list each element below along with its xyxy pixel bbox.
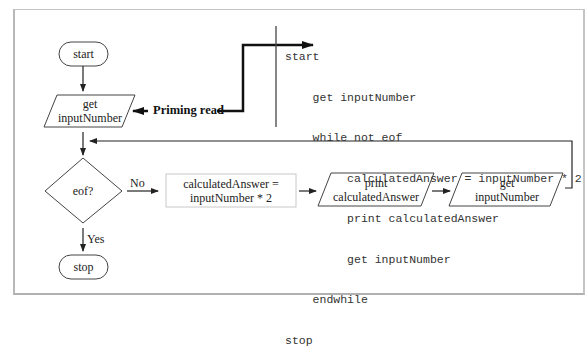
yes-label: Yes: [87, 232, 104, 246]
loop-input-label: get inputNumber: [457, 176, 557, 204]
priming-read-label: Priming read: [153, 103, 224, 117]
pseudocode-line: print calculatedAnswer: [285, 212, 582, 226]
stop-terminal-label: stop: [59, 260, 108, 274]
pseudocode-line: start: [285, 50, 582, 64]
loop-input-line1: get: [457, 176, 557, 190]
print-output-label: print calculatedAnswer: [326, 176, 426, 204]
process-line1: calculatedAnswer =: [166, 177, 296, 191]
print-output-line2: calculatedAnswer: [326, 190, 426, 204]
process-label: calculatedAnswer = inputNumber * 2: [166, 177, 296, 205]
priming-input-label: get inputNumber: [50, 97, 130, 125]
print-output-line1: print: [326, 176, 426, 190]
pseudocode-line: get inputNumber: [285, 91, 582, 105]
priming-input-line2: inputNumber: [50, 111, 130, 125]
process-line2: inputNumber * 2: [166, 191, 296, 205]
no-label: No: [130, 176, 145, 190]
decision-label: eof?: [58, 184, 108, 198]
pseudocode-line: endwhile: [285, 293, 582, 307]
priming-input-line1: get: [50, 97, 130, 111]
pseudocode-line: while not eof: [285, 131, 582, 145]
loop-input-line2: inputNumber: [457, 190, 557, 204]
pseudocode-line: get inputNumber: [285, 253, 582, 267]
start-terminal-label: start: [59, 47, 108, 61]
pseudocode-line: stop: [285, 334, 582, 348]
